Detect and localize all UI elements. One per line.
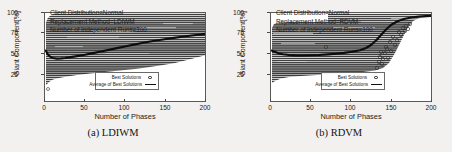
solid-line-marker	[145, 84, 156, 86]
x-tick-mark	[310, 99, 311, 102]
y-tick-label-100-b: 100	[204, 9, 244, 16]
legend-item-best-solutions: Best Solutions	[98, 74, 156, 81]
y-tick-label-75-b: 75	[204, 29, 244, 36]
x-tick-mark	[84, 99, 85, 102]
circle-open-marker	[144, 76, 156, 79]
annotation-line: Replacement Method=RDVM	[276, 18, 373, 27]
y-tick-label-25-a: 25	[0, 71, 18, 78]
x-tick-mark	[124, 99, 125, 102]
panel-ldiwm: Giant Component[%] 100 75 50 25	[0, 0, 226, 152]
legend-item-average: Average of Best Solutions	[98, 81, 156, 88]
figure-container: Giant Component[%] 100 75 50 25	[0, 0, 452, 152]
caption-a: (a) LDIWM	[0, 127, 226, 138]
x-axis-label-a: Number of Phases	[44, 112, 206, 121]
legend-item-best-solutions: Best Solutions	[324, 74, 382, 81]
y-tick-label-100-a: 100	[0, 9, 18, 16]
legend-b: Best Solutions Average of Best Solutions	[321, 72, 385, 90]
x-tick-mark	[350, 99, 351, 102]
x-tick-mark	[205, 99, 206, 102]
annotation-block-a: Client Distribution=Normal Replacement M…	[50, 9, 147, 35]
x-tick-label-150-b: 150	[376, 104, 406, 111]
annotation-line: Number of Independent Runs=100	[276, 26, 373, 35]
annotation-block-b: Client Distribution=Normal Replacement M…	[276, 9, 373, 35]
x-tick-mark	[270, 99, 271, 102]
x-tick-mark	[431, 99, 432, 102]
circle-open-marker	[370, 76, 382, 79]
legend-label: Best Solutions	[112, 75, 141, 80]
annotation-line: Client Distribution=Normal	[276, 9, 373, 18]
x-tick-label-200-a: 200	[190, 104, 220, 111]
x-tick-label-0-a: 0	[29, 104, 59, 111]
x-tick-mark	[44, 99, 45, 102]
annotation-line: Client Distribution=Normal	[50, 9, 147, 18]
x-tick-label-150-a: 150	[150, 104, 180, 111]
annotation-line: Replacement Method=LDIWM	[50, 18, 147, 27]
x-tick-mark	[391, 99, 392, 102]
y-tick-label-75-a: 75	[0, 29, 18, 36]
legend-label: Best Solutions	[338, 75, 367, 80]
x-tick-label-0-b: 0	[255, 104, 285, 111]
x-tick-label-50-b: 50	[295, 104, 325, 111]
y-tick-label-50-a: 50	[0, 50, 18, 57]
x-tick-label-100-a: 100	[109, 104, 139, 111]
x-axis-label-b: Number of Phases	[270, 112, 432, 121]
x-tick-label-200-b: 200	[416, 104, 446, 111]
solid-line-marker	[371, 84, 382, 86]
legend-label: Average of Best Solutions	[89, 82, 142, 87]
legend-item-average: Average of Best Solutions	[324, 81, 382, 88]
panel-rdvm: Giant Component[%] 100 75 50 25	[226, 0, 452, 152]
caption-b: (b) RDVM	[226, 127, 452, 138]
y-tick-label-25-b: 25	[204, 71, 244, 78]
x-tick-label-50-a: 50	[69, 104, 99, 111]
annotation-line: Number of Independent Runs=100	[50, 26, 147, 35]
legend-label: Average of Best Solutions	[315, 82, 368, 87]
x-tick-mark	[165, 99, 166, 102]
legend-a: Best Solutions Average of Best Solutions	[95, 72, 159, 90]
y-tick-label-50-b: 50	[204, 50, 244, 57]
x-tick-label-100-b: 100	[335, 104, 365, 111]
